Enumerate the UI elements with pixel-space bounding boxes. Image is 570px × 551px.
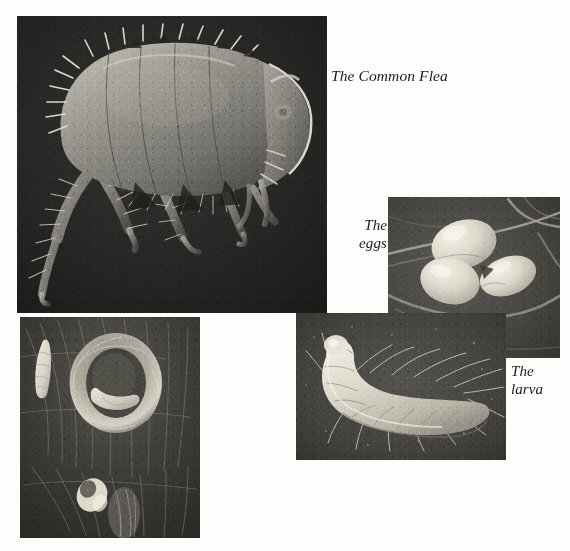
film-grain-larva [296, 313, 506, 460]
caption-larva: The larva [511, 362, 567, 399]
film-grain-flea [17, 16, 327, 313]
figure-page: The Common Flea The eggs The larva [0, 0, 570, 551]
caption-common-flea: The Common Flea [331, 67, 448, 86]
film-grain-pupa [20, 317, 200, 538]
flea-larva-photo [296, 313, 506, 460]
flea-pupa-photo [20, 317, 200, 538]
adult-flea-photo [17, 16, 327, 313]
caption-eggs: The eggs [331, 216, 387, 253]
